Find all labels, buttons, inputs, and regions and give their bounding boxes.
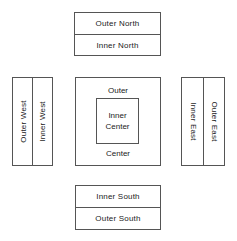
inner-east-label: Inner East — [189, 102, 198, 140]
outer-east-label: Outer East — [210, 101, 219, 141]
inner-center-label-line2: Center — [97, 122, 138, 131]
outer-south-label: Outer South — [95, 214, 140, 223]
inner-north-label: Inner North — [96, 41, 138, 50]
center-label: Center — [76, 149, 160, 158]
outer-label: Outer — [76, 86, 160, 95]
north-region: Outer North Inner North — [74, 12, 161, 56]
outer-east-cell: Outer East — [204, 78, 224, 165]
outer-south-cell: Outer South — [76, 208, 160, 229]
inner-east-cell: Inner East — [182, 78, 204, 165]
inner-south-label: Inner South — [96, 192, 140, 201]
west-region: Outer West Inner West — [12, 77, 53, 166]
inner-west-label: Inner West — [38, 101, 47, 142]
outer-north-cell: Outer North — [75, 13, 160, 34]
outer-north-label: Outer North — [96, 19, 140, 28]
center-region: Outer Inner Center Center — [75, 77, 161, 166]
inner-center-region: Inner Center — [96, 98, 139, 144]
outer-west-cell: Outer West — [13, 78, 33, 165]
inner-west-cell: Inner West — [33, 78, 52, 165]
inner-north-cell: Inner North — [75, 35, 160, 55]
east-region: Inner East Outer East — [181, 77, 225, 166]
inner-south-cell: Inner South — [76, 186, 160, 207]
inner-center-label-line1: Inner — [97, 111, 138, 120]
outer-west-label: Outer West — [19, 100, 28, 142]
south-region: Inner South Outer South — [75, 185, 161, 230]
